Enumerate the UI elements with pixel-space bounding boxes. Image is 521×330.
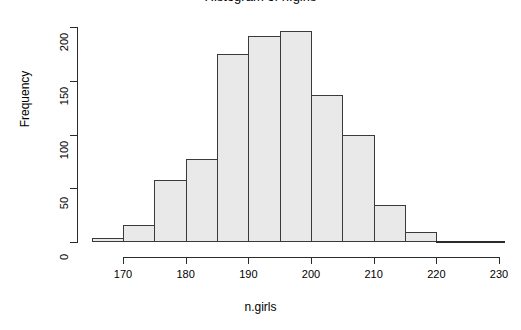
- histogram-bar: [311, 95, 343, 242]
- histogram-bar: [248, 36, 280, 242]
- histogram-bars: [0, 0, 521, 330]
- histogram-bar: [123, 225, 155, 242]
- histogram-bar: [186, 159, 218, 242]
- histogram-bar: [405, 232, 437, 242]
- histogram-bar: [92, 238, 124, 242]
- histogram-bar: [280, 31, 312, 242]
- histogram-plot: Histogram of n.girls Frequency n.girls 0…: [0, 0, 521, 330]
- histogram-bar: [374, 205, 406, 242]
- histogram-bar: [342, 135, 374, 243]
- baseline-tail: [436, 241, 505, 243]
- histogram-bar: [154, 180, 186, 242]
- histogram-bar: [217, 54, 249, 242]
